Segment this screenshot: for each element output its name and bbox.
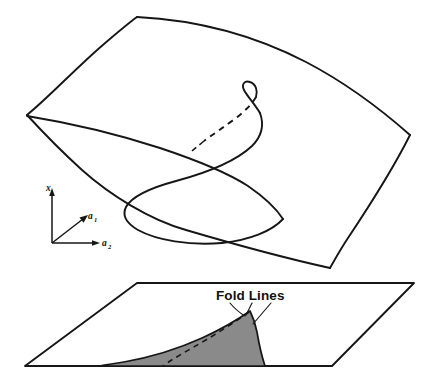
surface-hidden-fold-dashed-lower [191, 141, 204, 152]
surface-top-edge [137, 17, 410, 135]
axis-x-label: x [45, 183, 51, 193]
surface-bottom-edge [27, 115, 330, 268]
cusp-catastrophe-figure: x a 1 a 2 Fol [0, 0, 434, 389]
axis-a1-line [52, 219, 83, 243]
axis-triad-group: x a 1 a 2 [45, 183, 112, 250]
axis-a2-label: a [102, 238, 107, 248]
fold-lines-label: Fold Lines [216, 288, 285, 303]
axis-a1-subscript: 1 [94, 216, 97, 223]
surface-back-fold-curve [27, 116, 283, 219]
figure-canvas: x a 1 a 2 Fol [0, 0, 434, 389]
axis-a2-subscript: 2 [107, 243, 112, 250]
surface-hidden-fold-dashed [204, 97, 256, 141]
surface-cusp-loop [243, 81, 260, 113]
control-plane-group: Fold Lines [25, 283, 414, 366]
fold-lines-leader-right [253, 303, 271, 324]
surface-right-edge [330, 135, 410, 268]
bifurcation-set-region [99, 311, 265, 366]
surface-left-edge [27, 17, 137, 115]
axis-a1-label: a [88, 211, 93, 221]
axis-a2-arrowhead [92, 240, 100, 246]
surface-front-fold-curve [125, 113, 284, 244]
equilibrium-surface-group [27, 17, 410, 268]
fold-lines-leader-left [230, 303, 245, 316]
